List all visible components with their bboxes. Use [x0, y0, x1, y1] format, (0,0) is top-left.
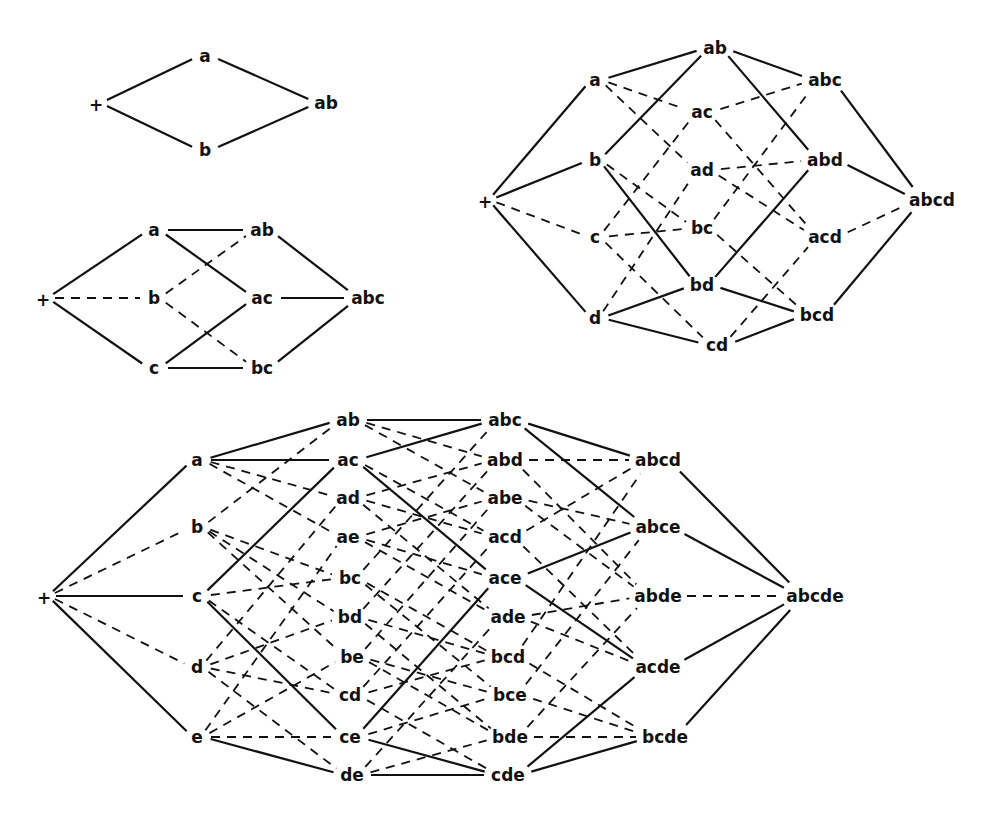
edge-acd-abcd — [526, 468, 632, 531]
edge-ac-acd — [365, 465, 483, 531]
node-ac: ac — [691, 102, 713, 122]
edge-empty-a — [53, 466, 187, 592]
node-be: be — [340, 647, 364, 667]
node-ace: ace — [488, 568, 521, 588]
edge-be-bde — [369, 662, 489, 730]
edge-ae-ace — [366, 540, 481, 575]
edge-ad-acd — [719, 176, 804, 231]
node-acd: acd — [488, 527, 522, 547]
edge-empty-a — [53, 234, 142, 294]
edge-ace-acde — [526, 585, 633, 658]
edge-abc-abcd — [841, 91, 913, 187]
node-cd: cd — [339, 685, 361, 705]
lattice-diagram-3-elements: +abcabacbcabc — [36, 220, 385, 378]
node-abd: abd — [487, 450, 523, 470]
edge-abd-abde — [523, 470, 636, 585]
edge-bde-abde — [527, 608, 637, 727]
edge-d-cd — [211, 669, 331, 693]
lattice-diagrams-figure: +abab +abcabacbcabc +abcdabacadbcbdcdabc… — [0, 0, 992, 817]
edge-a-ac — [166, 235, 246, 292]
edge-a-ab — [211, 423, 330, 458]
node-ce: ce — [339, 727, 361, 747]
edge-empty-b — [107, 106, 192, 147]
edge-b-be — [208, 532, 338, 649]
edge-b-ab — [166, 236, 246, 293]
edge-bc-bcd — [717, 235, 798, 306]
node-bc: bc — [339, 568, 361, 588]
edge-b-bd — [604, 166, 690, 276]
edge-de-ade — [365, 627, 491, 767]
node-a: a — [199, 46, 210, 66]
node-bcd: bcd — [491, 647, 525, 667]
edge-acd-abcd — [848, 206, 905, 233]
edge-cd-acd — [730, 247, 808, 337]
node-de: de — [340, 765, 364, 785]
node-bc: bc — [691, 218, 713, 238]
edge-ade-acde — [531, 622, 631, 662]
edge-empty-c — [496, 202, 581, 234]
node-a: a — [148, 220, 159, 240]
node-bd: bd — [338, 607, 362, 627]
edge-bd-bcd — [720, 288, 793, 312]
edge-e-de — [211, 739, 334, 772]
edge-ade-abde — [532, 598, 630, 615]
node-abd: abd — [807, 150, 843, 170]
edge-abc-abcd — [528, 424, 630, 456]
node-ac: ac — [251, 288, 273, 308]
edge-bcd-abcd — [834, 212, 912, 304]
node-bc: bc — [251, 358, 273, 378]
lattice-diagram-2-elements: +abab — [89, 46, 338, 160]
node-group: +abcdeabacadaebcbdbecdcedeabcabdabeacdac… — [37, 410, 844, 785]
edge-abe-abde — [525, 506, 633, 587]
node-abcd: abcd — [909, 190, 955, 210]
edge-bd-bde — [365, 624, 491, 729]
node-abe: abe — [487, 488, 522, 508]
edge-c-ce — [207, 602, 336, 730]
lattice-diagram-5-elements: +abcdeabacadaebcbdbecdcedeabcabdabeacdac… — [37, 410, 844, 785]
node-ab: ab — [703, 38, 727, 58]
edge-d-de — [209, 672, 337, 769]
edge-bc-abc — [363, 430, 488, 570]
node-abcd: abcd — [635, 450, 681, 470]
edge-ab-abc — [278, 236, 348, 290]
node-abde: abde — [634, 586, 681, 606]
node-empty: + — [89, 95, 103, 115]
edge-b-ab — [605, 56, 701, 155]
node-ac: ac — [337, 450, 359, 470]
edge-c-ac — [166, 304, 246, 363]
edge-b-bc — [166, 303, 246, 362]
edge-c-bc — [609, 229, 683, 236]
edge-d-bd — [608, 288, 683, 315]
edge-abc-abce — [525, 428, 635, 517]
node-group: +abab — [89, 46, 338, 160]
edge-cd-bcd — [369, 660, 485, 692]
node-group: +abcdabacadbcbdcdabcabdacdbcdabcd — [478, 38, 955, 355]
node-a: a — [191, 450, 202, 470]
node-a: a — [589, 70, 600, 90]
edge-ad-abd — [721, 161, 801, 169]
edge-ace-abce — [528, 533, 631, 574]
node-cde: cde — [491, 765, 525, 785]
edge-cde-bcde — [531, 741, 637, 772]
edge-cde-acde — [528, 677, 635, 766]
node-ae: ae — [336, 527, 359, 547]
node-ab: ab — [336, 410, 360, 430]
edge-group — [493, 51, 913, 343]
edge-ce-ace — [363, 588, 488, 729]
node-b: b — [191, 517, 203, 537]
node-ab: ab — [250, 220, 274, 240]
node-abc: abc — [488, 410, 522, 430]
lattice-diagram-4-elements: +abcdabacadbcbdcdabcabdacdbcdabcd — [478, 38, 955, 355]
edge-empty-a — [493, 86, 585, 195]
edge-bce-bcde — [533, 699, 637, 733]
edge-ad-abd — [367, 463, 482, 495]
node-abce: abce — [635, 517, 680, 537]
edge-empty-b — [496, 163, 582, 198]
edge-bc-abc — [714, 91, 810, 219]
edge-ab-abe — [365, 425, 484, 492]
node-e: e — [191, 727, 203, 747]
edge-b-ab — [218, 107, 308, 147]
edge-bce-abce — [526, 540, 639, 684]
edge-ce-cde — [369, 740, 485, 772]
edge-bd-bcd — [368, 620, 484, 654]
